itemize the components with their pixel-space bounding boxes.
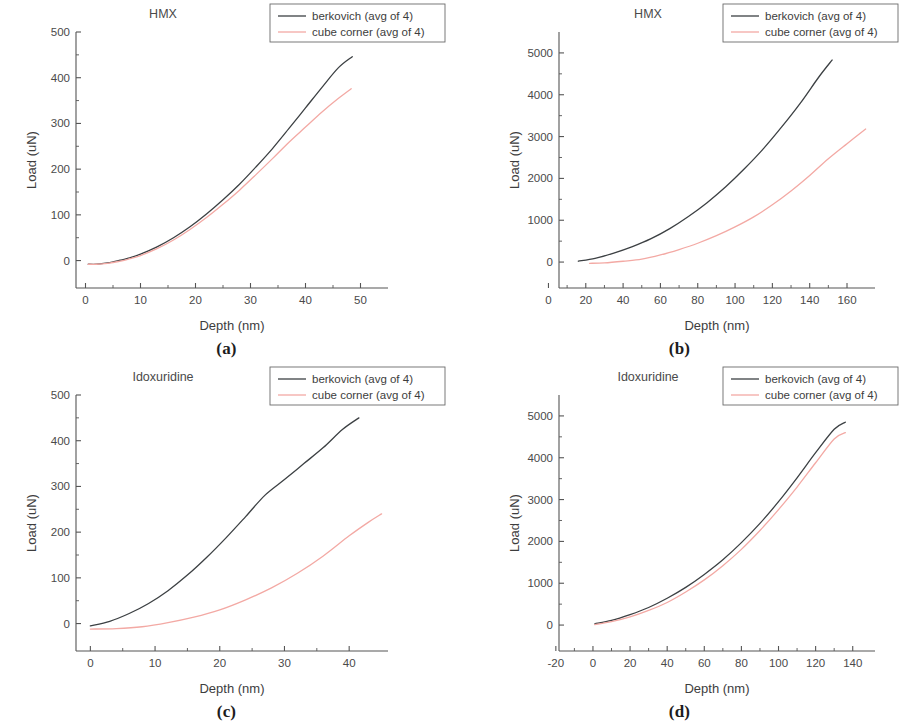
chart-svg-c: 0100200300400500010203040IdoxuridineDept… — [0, 363, 453, 726]
plot-title: HMX — [149, 7, 177, 21]
y-axis-title: Load (uN) — [24, 131, 39, 189]
y-tick-label: 400 — [51, 435, 70, 447]
x-tick-label: 40 — [661, 657, 674, 669]
chart-panel-d: 010002000300040005000-200204060801001201… — [453, 363, 906, 726]
y-tick-label: 200 — [51, 163, 70, 175]
series-line-cube-corner — [590, 129, 866, 263]
y-tick-label: 3000 — [527, 494, 553, 506]
x-tick-label: 20 — [213, 657, 226, 669]
y-tick-label: 5000 — [527, 47, 553, 59]
x-tick-label: 60 — [698, 657, 711, 669]
legend-label: berkovich (avg of 4) — [765, 10, 866, 22]
legend-label: berkovich (avg of 4) — [312, 373, 413, 385]
x-tick-label: 20 — [579, 294, 592, 306]
x-tick-label: 140 — [843, 657, 862, 669]
series-line-berkovich — [90, 418, 359, 626]
panel-caption-b: (b) — [453, 339, 906, 359]
plot-title: HMX — [634, 7, 662, 21]
y-tick-label: 4000 — [527, 89, 553, 101]
y-tick-label: 4000 — [527, 452, 553, 464]
x-tick-label: 10 — [149, 657, 162, 669]
y-tick-label: 5000 — [527, 410, 553, 422]
chart-svg-d: 010002000300040005000-200204060801001201… — [453, 363, 906, 726]
chart-svg-a: 010020030040050001020304050HMXDepth (nm)… — [0, 0, 453, 363]
y-tick-label: 0 — [547, 619, 553, 631]
x-tick-label: 140 — [800, 294, 819, 306]
legend-label: cube corner (avg of 4) — [312, 389, 425, 401]
legend-label: cube corner (avg of 4) — [312, 26, 425, 38]
x-tick-label: -20 — [548, 657, 565, 669]
legend-label: cube corner (avg of 4) — [765, 389, 878, 401]
chart-panel-a: 010020030040050001020304050HMXDepth (nm)… — [0, 0, 453, 363]
series-line-cube-corner — [595, 433, 846, 625]
panel-caption-c: (c) — [0, 702, 453, 722]
x-axis-title: Depth (nm) — [684, 318, 749, 333]
x-tick-label: 40 — [299, 294, 312, 306]
x-tick-label: 160 — [837, 294, 856, 306]
y-tick-label: 2000 — [527, 535, 553, 547]
x-tick-label: 10 — [134, 294, 147, 306]
legend-label: berkovich (avg of 4) — [765, 373, 866, 385]
x-axis-title: Depth (nm) — [199, 681, 264, 696]
y-axis-title: Load (uN) — [507, 494, 522, 552]
chart-panel-b: 0100020003000400050000204060801001201401… — [453, 0, 906, 363]
y-tick-label: 100 — [51, 209, 70, 221]
x-tick-label: 0 — [82, 294, 88, 306]
x-tick-label: 100 — [769, 657, 788, 669]
panel-caption-d: (d) — [453, 702, 906, 722]
series-line-berkovich — [88, 57, 352, 265]
x-tick-label: 0 — [590, 657, 596, 669]
x-axis-title: Depth (nm) — [684, 681, 749, 696]
x-tick-label: 120 — [806, 657, 825, 669]
x-tick-label: 50 — [354, 294, 367, 306]
panel-caption-a: (a) — [0, 339, 453, 359]
x-tick-label: 20 — [624, 657, 637, 669]
x-tick-label: 60 — [654, 294, 667, 306]
y-tick-label: 400 — [51, 72, 70, 84]
x-tick-label: 20 — [189, 294, 202, 306]
y-axis-title: Load (uN) — [24, 494, 39, 552]
x-tick-label: 40 — [617, 294, 630, 306]
y-tick-label: 1000 — [527, 214, 553, 226]
y-tick-label: 0 — [64, 255, 70, 267]
x-tick-label: 80 — [691, 294, 704, 306]
series-line-berkovich — [595, 422, 846, 624]
plot-title: Idoxuridine — [617, 370, 678, 384]
x-tick-label: 30 — [278, 657, 291, 669]
y-tick-label: 100 — [51, 572, 70, 584]
plot-title: Idoxuridine — [132, 370, 193, 384]
y-tick-label: 3000 — [527, 131, 553, 143]
y-tick-label: 2000 — [527, 172, 553, 184]
y-tick-label: 0 — [64, 618, 70, 630]
x-tick-label: 120 — [763, 294, 782, 306]
figure-grid: 010020030040050001020304050HMXDepth (nm)… — [0, 0, 906, 726]
x-axis-title: Depth (nm) — [199, 318, 264, 333]
y-tick-label: 500 — [51, 26, 70, 38]
x-tick-label: 0 — [87, 657, 93, 669]
x-tick-label: 30 — [244, 294, 257, 306]
y-axis-title: Load (uN) — [507, 131, 522, 189]
chart-svg-b: 0100020003000400050000204060801001201401… — [453, 0, 906, 363]
y-tick-label: 0 — [547, 256, 553, 268]
x-tick-label: 80 — [735, 657, 748, 669]
x-tick-label: 40 — [343, 657, 356, 669]
x-tick-label: 0 — [545, 294, 551, 306]
y-tick-label: 300 — [51, 480, 70, 492]
legend-label: cube corner (avg of 4) — [765, 26, 878, 38]
y-tick-label: 1000 — [527, 577, 553, 589]
x-tick-label: 100 — [725, 294, 744, 306]
y-tick-label: 500 — [51, 389, 70, 401]
y-tick-label: 300 — [51, 117, 70, 129]
series-line-cube-corner — [88, 89, 351, 265]
y-tick-label: 200 — [51, 526, 70, 538]
series-line-berkovich — [578, 60, 832, 261]
legend-label: berkovich (avg of 4) — [312, 10, 413, 22]
chart-panel-c: 0100200300400500010203040IdoxuridineDept… — [0, 363, 453, 726]
